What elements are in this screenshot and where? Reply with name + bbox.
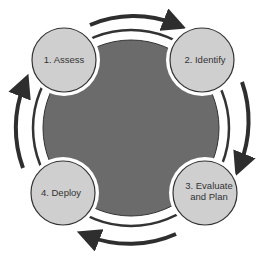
arrow-identify-to-evaluate (240, 82, 249, 165)
node-assess-label: 1. Assess (44, 54, 85, 65)
node-identify-label: 2. Identify (184, 54, 225, 65)
arrow-assess-to-identify (90, 16, 175, 25)
node-evaluate-label-line2: and Plan (190, 191, 228, 202)
cycle-diagram: 1. Assess 2. Identify 3. Evaluate and Pl… (0, 0, 263, 256)
node-assess: 1. Assess (32, 28, 96, 92)
node-deploy-label: 4. Deploy (41, 187, 81, 198)
arrow-evaluate-to-deploy (88, 234, 176, 244)
node-deploy: 4. Deploy (31, 161, 95, 225)
node-identify: 2. Identify (170, 28, 234, 92)
node-evaluate-and-plan: 3. Evaluate and Plan (173, 161, 237, 225)
node-evaluate-label-line1: 3. Evaluate (185, 180, 233, 191)
arrow-deploy-to-assess (16, 85, 24, 168)
